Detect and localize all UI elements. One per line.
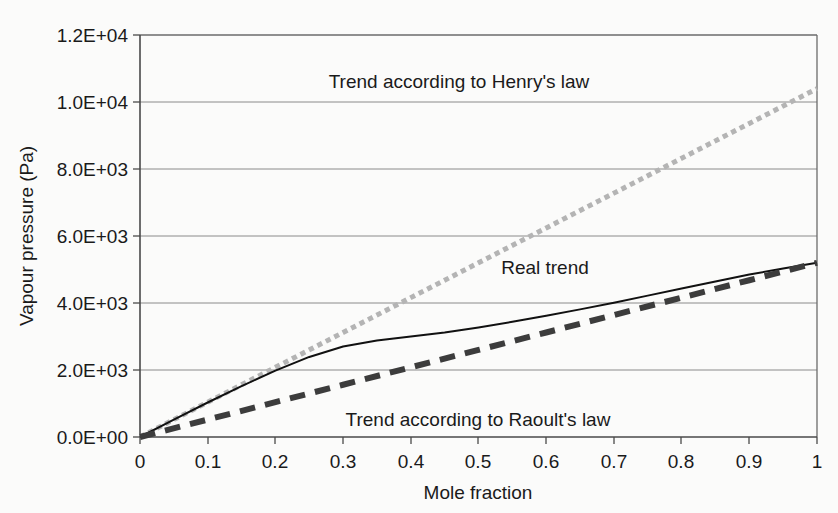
- x-axis-title: Mole fraction: [424, 482, 533, 503]
- chart-page: 1.2E+04 1.0E+04 8.0E+03 6.0E+03 4.0E+03 …: [0, 0, 838, 513]
- y-tick-label-0: 0.0E+00: [57, 427, 128, 448]
- x-tick-label-5: 0.5: [465, 451, 491, 472]
- x-tick-label-7: 0.7: [601, 451, 627, 472]
- x-tick-label-9: 0.9: [736, 451, 762, 472]
- x-tick-label-4: 0.4: [398, 451, 425, 472]
- y-tick-label-6: 1.2E+04: [57, 25, 129, 46]
- y-tick-label-4: 8.0E+03: [57, 159, 128, 180]
- x-tick-label-10: 1: [812, 451, 823, 472]
- real-trend-annotation: Real trend: [501, 257, 589, 278]
- x-tick-label-3: 0.3: [330, 451, 356, 472]
- y-tick-label-2: 4.0E+03: [57, 293, 128, 314]
- x-tick-label-8: 0.8: [668, 451, 694, 472]
- y-tick-label-5: 1.0E+04: [57, 92, 129, 113]
- x-tick-label-2: 0.2: [262, 451, 288, 472]
- y-tick-label-3: 6.0E+03: [57, 226, 128, 247]
- henry-law-annotation: Trend according to Henry's law: [329, 71, 590, 92]
- x-tick-label-6: 0.6: [533, 451, 559, 472]
- y-axis-title: Vapour pressure (Pa): [16, 146, 37, 326]
- y-tick-label-1: 2.0E+03: [57, 360, 128, 381]
- x-tick-label-0: 0: [135, 451, 146, 472]
- x-tick-label-1: 0.1: [195, 451, 221, 472]
- vapour-pressure-chart: 1.2E+04 1.0E+04 8.0E+03 6.0E+03 4.0E+03 …: [0, 0, 838, 513]
- raoult-law-annotation: Trend according to Raoult's law: [346, 409, 611, 430]
